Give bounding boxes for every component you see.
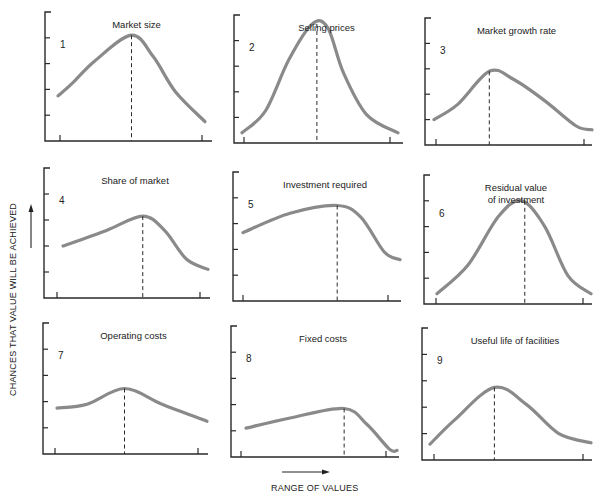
y-axis-label: CHANCES THAT VALUE WILL BE ACHIEVED	[8, 203, 18, 396]
distribution-curve	[437, 201, 591, 294]
panel-title: Fixed costs	[299, 333, 347, 344]
distribution-curve	[63, 216, 208, 269]
probability-distribution-figure: 1Market size2Selling prices3Market growt…	[0, 0, 600, 496]
panel-number: 2	[249, 42, 255, 53]
chart-panel-9: 9Useful life of facilities	[422, 328, 592, 460]
axis-lines	[425, 18, 592, 145]
panel-number: 4	[59, 195, 65, 206]
panel-number: 6	[439, 208, 445, 219]
panel-title: Useful life of facilities	[471, 335, 560, 346]
chart-panel-3: 3Market growth rate	[425, 18, 592, 145]
axis-lines	[422, 328, 592, 460]
chart-panel-7: 7Operating costs	[43, 323, 208, 454]
panel-number: 5	[248, 199, 254, 210]
distribution-curve	[246, 408, 397, 451]
panel-number: 1	[60, 39, 66, 50]
panel-title: Market growth rate	[477, 25, 556, 36]
chart-panel-6: 6Residual valueof investment	[424, 175, 592, 304]
panel-number: 3	[440, 45, 446, 56]
distribution-curve	[242, 21, 398, 133]
y-axis-label-group: CHANCES THAT VALUE WILL BE ACHIEVED	[8, 203, 34, 396]
axis-lines	[231, 326, 399, 457]
distribution-curve	[430, 387, 591, 444]
distribution-curve	[243, 205, 400, 259]
axis-lines	[44, 168, 210, 298]
panels-grid: 1Market size2Selling prices3Market growt…	[43, 12, 592, 460]
chart-panel-2: 2Selling prices	[234, 15, 403, 143]
axis-lines	[45, 12, 212, 141]
chart-panel-5: 5Investment required	[233, 172, 401, 301]
panel-number: 9	[437, 355, 443, 366]
panel-title: Market size	[112, 19, 161, 30]
chart-panel-4: 4Share of market	[44, 168, 210, 298]
panel-title: Investment required	[283, 179, 367, 190]
panel-title: Residual value	[485, 182, 547, 193]
panel-title: Selling prices	[298, 22, 355, 33]
panel-number: 8	[246, 353, 252, 364]
y-arrowhead-icon	[29, 204, 34, 212]
chart-panel-8: 8Fixed costs	[231, 326, 399, 457]
panel-title: Operating costs	[100, 330, 167, 341]
panel-title: of investment	[488, 194, 545, 205]
x-axis-label: RANGE OF VALUES	[271, 483, 358, 493]
x-axis-label-group: RANGE OF VALUES	[271, 470, 358, 494]
distribution-curve	[434, 70, 592, 130]
chart-panel-1: 1Market size	[45, 12, 212, 141]
x-arrowhead-icon	[322, 470, 330, 475]
panel-title: Share of market	[101, 175, 169, 186]
panel-number: 7	[58, 350, 64, 361]
distribution-curve	[57, 389, 207, 422]
